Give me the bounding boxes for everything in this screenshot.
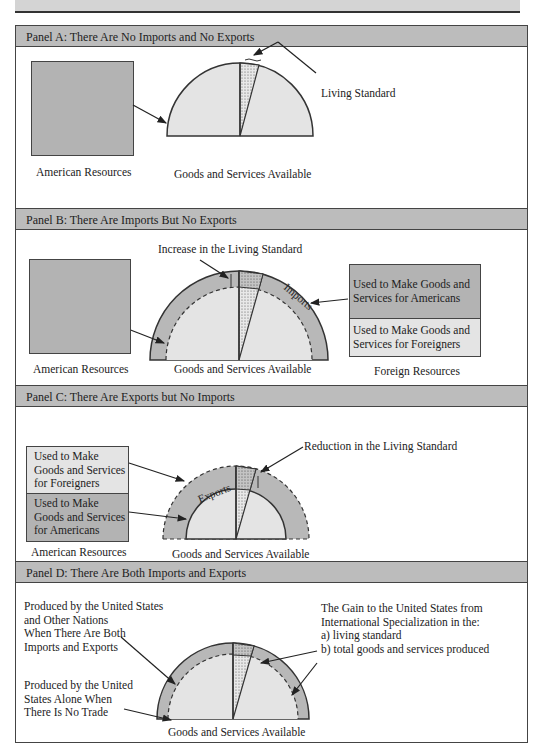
american-resources-box-b <box>29 259 131 354</box>
alone-line2: States Alone When <box>24 693 133 707</box>
resources-for-foreigners-box: Used to Make Goods and Services for Fore… <box>26 446 129 495</box>
foreign-resources-for-foreigners-box: Used to Make Goods and Services for Fore… <box>349 318 481 357</box>
panel-c-header: Panel C: There Are Exports but No Import… <box>16 385 527 407</box>
gain-line1: The Gain to the United States from <box>321 602 489 616</box>
gain-b: b) total goods and services produced <box>321 643 489 657</box>
reduction-living-standard-label: Reduction in the Living Standard <box>304 440 457 453</box>
foreign-box-bottom-line2: Services for Foreigners <box>353 338 470 352</box>
alone-line3: There Is No Trade <box>24 706 133 720</box>
resources-for-americans-box: Used to Make Goods and Services for Amer… <box>26 493 129 542</box>
gain-line2: International Specialization in the: <box>321 616 489 630</box>
both-line4: Imports and Exports <box>24 641 163 655</box>
both-line1: Produced by the United States <box>24 600 163 614</box>
gain-label: The Gain to the United States from Inter… <box>321 602 489 656</box>
both-line2: and Other Nations <box>24 614 163 628</box>
panel-b-header: Panel B: There Are Imports But No Export… <box>16 208 527 230</box>
foreign-resources-for-americans-box: Used to Make Goods and Services for Amer… <box>349 264 481 320</box>
foreign-resources-label: Foreign Resources <box>374 365 460 378</box>
panel-d-header: Panel D: There Are Both Imports and Expo… <box>16 561 527 583</box>
box-bottom-line1: Used to Make <box>34 497 125 511</box>
gain-a: a) living standard <box>321 629 489 643</box>
alone-line1: Produced by the United <box>24 679 133 693</box>
american-resources-label-b: American Resources <box>33 363 128 376</box>
increase-living-standard-label: Increase in the Living Standard <box>158 243 302 256</box>
foreign-box-top-line2: Services for Americans <box>353 292 470 306</box>
box-bottom-line3: for Americans <box>34 524 125 538</box>
produced-with-trade-label: Produced by the United States and Other … <box>24 600 163 654</box>
foreign-box-bottom-line1: Used to Make Goods and <box>353 324 470 338</box>
goods-services-label-b: Goods and Services Available <box>174 363 311 376</box>
box-bottom-line2: Goods and Services <box>34 511 125 525</box>
top-strip <box>15 0 520 13</box>
box-top-line2: Goods and Services <box>34 464 125 478</box>
american-resources-label-c: American Resources <box>31 546 126 559</box>
foreign-box-top-line1: Used to Make Goods and <box>353 278 470 292</box>
goods-services-label-d: Goods and Services Available <box>168 726 305 739</box>
goods-services-label-c: Goods and Services Available <box>172 548 309 561</box>
figure-frame: Panel A: There Are No Imports and No Exp… <box>15 25 528 743</box>
box-top-line1: Used to Make <box>34 450 125 464</box>
both-line3: When There Are Both <box>24 627 163 641</box>
box-top-line3: for Foreigners <box>34 477 125 491</box>
produced-alone-label: Produced by the United States Alone When… <box>24 679 133 720</box>
